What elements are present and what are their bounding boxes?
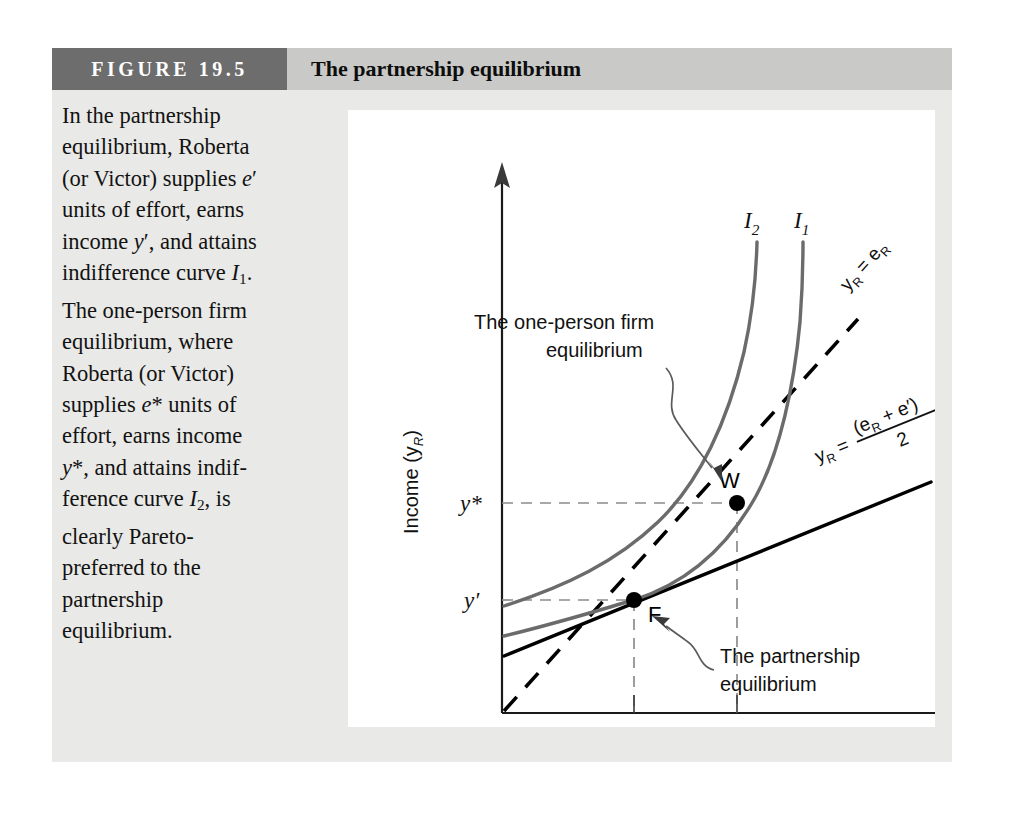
svg-text:Income (yR): Income (yR) (400, 430, 426, 534)
partnership-annotation-line2: equilibrium (720, 673, 817, 695)
one-person-firm-annotation-line2: equilibrium (546, 339, 643, 361)
caption-line: equilibrium, Roberta (62, 131, 315, 162)
curve-label-I2: I2 (743, 208, 760, 238)
axis-ticks (634, 695, 737, 713)
caption-line: ference curve I2, is (62, 483, 315, 521)
indifference-curve-I1 (504, 242, 803, 636)
one-person-firm-annotation-line1: The one-person firm (474, 311, 654, 333)
partnership-annotation-leader (666, 626, 714, 670)
partnership-payoff-line-label: yR = (eR + e′) 2 (807, 386, 935, 482)
point-W-dot (729, 495, 745, 511)
figure-header: FIGURE 19.5 The partnership equilibrium (52, 48, 952, 90)
partnership-payoff-line (504, 482, 931, 656)
caption-line: equilibrium, where (62, 326, 315, 357)
caption-line: income y′, and attains (62, 226, 315, 257)
curve-label-I1: I1 (793, 208, 809, 238)
curve-labels: I2 I1 (743, 208, 809, 238)
caption-line: Roberta (or Victor) (62, 358, 315, 389)
one-person-firm-annotation: The one-person firm equilibrium (474, 311, 722, 482)
caption-line: equilibrium. (62, 615, 315, 646)
figure-panel: FIGURE 19.5 The partnership equilibrium … (52, 48, 952, 762)
y-tick-label-y-star: y* (458, 491, 482, 516)
figure-title: The partnership equilibrium (287, 48, 952, 90)
partnership-equilibrium-chart: W F I2 I1 yR = eR yR = (eR + e′) 2 The (348, 110, 935, 727)
plot-panel: W F I2 I1 yR = eR yR = (eR + e′) 2 The (348, 110, 935, 727)
y-axis-title: Income (yR) (400, 430, 426, 534)
caption-line: In the partnership (62, 100, 315, 131)
caption-line: indifference curve I1. (62, 257, 315, 295)
point-F-label: F (648, 602, 661, 627)
caption-line: effort, earns income (62, 420, 315, 451)
svg-text:2: 2 (894, 427, 912, 450)
y-tick-label-y-prime: y′ (462, 588, 480, 613)
partnership-annotation-line1: The partnership (720, 645, 860, 667)
caption-line: partnership (62, 584, 315, 615)
caption-line: (or Victor) supplies e′ (62, 163, 315, 194)
indifference-curve-I2 (504, 242, 757, 606)
caption-line: supplies e* units of (62, 389, 315, 420)
svg-text:yR =: yR = (812, 434, 854, 470)
one-person-firm-annotation-arrowhead (708, 460, 722, 482)
caption-line: preferred to the (62, 552, 315, 583)
point-W-label: W (719, 468, 740, 493)
figure-number-label: FIGURE 19.5 (52, 48, 287, 90)
one-person-firm-annotation-leader (666, 368, 712, 468)
caption-line: y*, and attains indif- (62, 452, 315, 483)
caption-line: units of effort, earns (62, 194, 315, 225)
svg-text:yR = eR: yR = eR (835, 236, 894, 297)
caption-line: clearly Pareto- (62, 521, 315, 552)
caption-line: The one-person firm (62, 295, 315, 326)
svg-text:(eR + e′): (eR + e′) (850, 393, 923, 442)
forty-five-degree-line-label: yR = eR (835, 236, 894, 297)
partnership-annotation: The partnership equilibrium (652, 616, 860, 695)
figure-caption: In the partnership equilibrium, Roberta … (62, 100, 315, 646)
point-F-dot (626, 592, 642, 608)
